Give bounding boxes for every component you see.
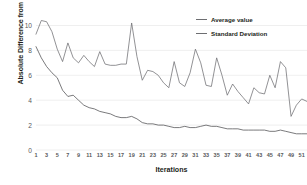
y-tick-label: 6: [12, 72, 32, 79]
legend-swatch-icon: [196, 19, 207, 20]
legend-label: Average value: [211, 16, 253, 23]
x-axis-title: Iterations: [36, 166, 307, 174]
legend-item-standard-deviation: Standard Deviation: [196, 28, 267, 39]
legend-swatch-icon: [196, 33, 207, 34]
y-tick-label: 10: [12, 22, 32, 29]
legend-item-average-value: Average value: [196, 14, 267, 25]
series-line-standard-deviation: [36, 47, 307, 134]
chart-container: Absolute Difference from Difficulty Goal…: [0, 0, 307, 185]
y-tick-label: 4: [12, 97, 32, 104]
x-tick-label: 51: [295, 152, 307, 159]
y-tick-label: 8: [12, 47, 32, 54]
chart-legend: Average value Standard Deviation: [196, 14, 267, 42]
legend-label: Standard Deviation: [211, 30, 267, 37]
y-tick-label: 2: [12, 122, 32, 129]
